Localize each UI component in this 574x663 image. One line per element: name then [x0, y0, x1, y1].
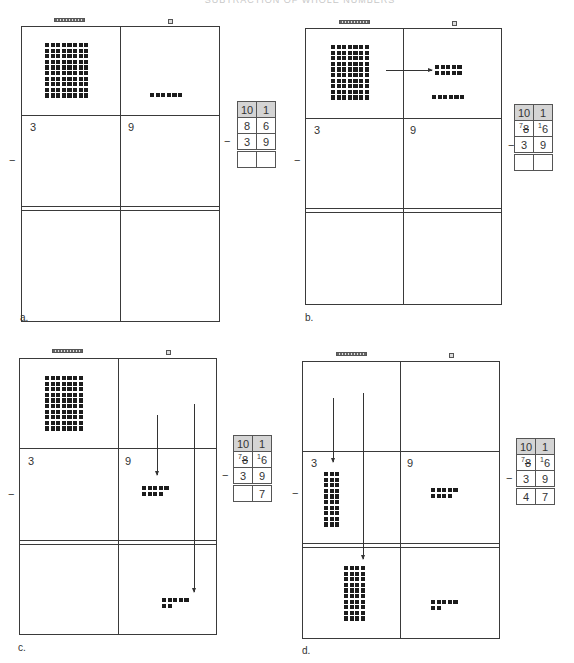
minus-sign: −: [9, 154, 15, 166]
block-square: [178, 93, 182, 97]
ones-digit: 6: [261, 454, 267, 466]
block-square: [51, 387, 55, 391]
block-square: [348, 51, 352, 55]
header-tens: 10: [515, 105, 534, 121]
block-square: [79, 410, 83, 414]
block-square: [342, 95, 346, 99]
block-square: [73, 415, 77, 419]
block-square: [67, 404, 71, 408]
block-square: [361, 583, 365, 587]
block-square: [56, 398, 60, 402]
block-square: [361, 572, 365, 576]
block-square: [449, 95, 453, 99]
block-square: [431, 606, 435, 610]
block-square: [56, 410, 60, 414]
block-square: [56, 387, 60, 391]
crossed-out-tens-digit: 8: [525, 457, 531, 469]
block-square: [353, 95, 357, 99]
cell: 9: [257, 134, 276, 151]
row-divider: [305, 118, 502, 119]
minus-sign: −: [294, 154, 300, 166]
block-square: [45, 404, 49, 408]
remaining-tens-blocks: [344, 566, 365, 621]
subtrahend-ones: 9: [407, 457, 413, 469]
block-square: [45, 77, 49, 81]
answer-divider: [305, 208, 502, 213]
subtrahend-tens: 3: [30, 121, 36, 133]
block-square: [359, 51, 363, 55]
unit-cube-icon: [168, 19, 173, 24]
block-square: [79, 398, 83, 402]
block-square: [153, 486, 157, 490]
block-square: [365, 67, 369, 71]
regroup-arrow: [386, 70, 432, 71]
block-square: [45, 88, 49, 92]
subtrahend-tens: 3: [314, 124, 320, 136]
block-square: [348, 90, 352, 94]
block-square: [365, 95, 369, 99]
block-square: [365, 84, 369, 88]
block-square: [56, 71, 60, 75]
block-square: [51, 71, 55, 75]
cell: 9: [536, 471, 555, 488]
block-square: [330, 500, 334, 504]
block-square: [452, 65, 456, 69]
block-square: [67, 82, 71, 86]
header-tens: 10: [517, 439, 536, 455]
block-square: [435, 65, 439, 69]
block-square: [73, 393, 77, 397]
block-square: [460, 95, 464, 99]
block-square: [335, 478, 339, 482]
block-square: [348, 73, 352, 77]
block-square: [51, 421, 55, 425]
block-square: [337, 51, 341, 55]
block-square: [342, 56, 346, 60]
regrouped-ones-blocks: [435, 65, 462, 75]
block-square: [350, 566, 354, 570]
block-square: [142, 492, 146, 496]
block-square: [442, 600, 446, 604]
block-square: [84, 77, 88, 81]
block-square: [79, 393, 83, 397]
block-square: [361, 600, 365, 604]
table-minus-sign: −: [506, 472, 512, 484]
block-square: [184, 598, 188, 602]
block-square: [350, 600, 354, 604]
column-divider: [400, 361, 401, 639]
block-square: [45, 387, 49, 391]
block-square: [344, 572, 348, 576]
block-square: [62, 77, 66, 81]
block-square: [359, 84, 363, 88]
cell: 6: [257, 118, 276, 134]
block-square: [84, 93, 88, 97]
block-square: [56, 404, 60, 408]
block-square: [335, 522, 339, 526]
block-square: [62, 54, 66, 58]
place-value-table: 101 78 16 39 7: [233, 435, 272, 502]
block-square: [51, 398, 55, 402]
block-square: [448, 494, 452, 498]
block-square: [335, 494, 339, 498]
block-square: [51, 382, 55, 386]
block-square: [344, 611, 348, 615]
result-arrow: [363, 393, 364, 559]
block-square: [73, 82, 77, 86]
cell: 9: [253, 468, 272, 485]
block-square: [437, 606, 441, 610]
block-square: [45, 93, 49, 97]
block-square: [353, 84, 357, 88]
block-square: [350, 572, 354, 576]
block-square: [142, 486, 146, 490]
block-square: [355, 594, 359, 598]
removed-ones-blocks: [431, 488, 458, 498]
block-square: [344, 583, 348, 587]
remaining-ones-blocks: [431, 600, 458, 610]
block-square: [79, 404, 83, 408]
block-square: [348, 45, 352, 49]
block-square: [62, 65, 66, 69]
block-square: [359, 73, 363, 77]
block-square: [344, 566, 348, 570]
block-square: [79, 49, 83, 53]
block-square: [437, 600, 441, 604]
result-cell: [534, 154, 553, 171]
